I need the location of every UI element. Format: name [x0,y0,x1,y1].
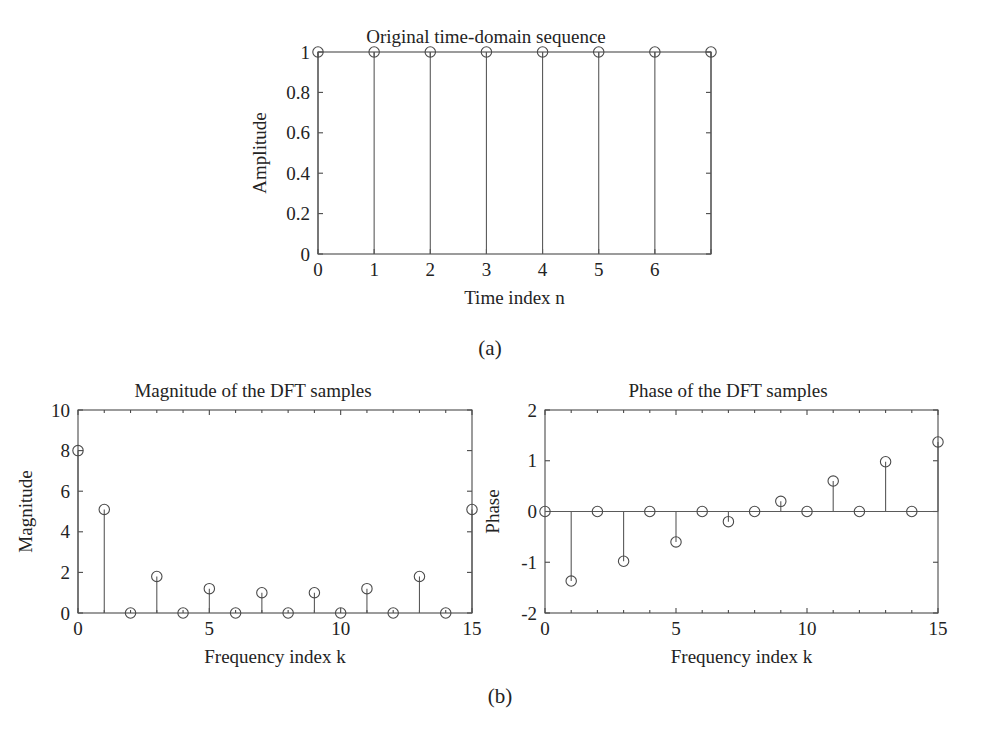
x-tick-label: 5 [205,618,215,639]
x-tick-label: 10 [331,618,350,639]
panel-time-domain: Original time-domain sequence 00.20.40.6… [236,26,736,336]
y-tick-label: -1 [521,552,537,573]
y-tick-label: -2 [521,603,537,624]
y-tick-label: 2 [61,562,71,583]
y-tick-label: 0.4 [286,163,310,184]
y-tick-label: 0 [528,501,538,522]
y-tick-label: 0 [61,603,71,624]
x-tick-label: 15 [929,618,948,639]
y-tick-label: 0.6 [286,122,310,143]
y-tick-label: 2 [528,400,538,421]
x-tick-label: 4 [538,259,548,280]
axis-box [318,52,711,254]
y-tick-label: 0 [301,244,311,265]
y-axis-label: Amplitude [249,112,270,193]
x-axis-label: Frequency index k [671,646,813,667]
x-tick-label: 10 [798,618,817,639]
x-tick-label: 2 [426,259,436,280]
panel-dft-magnitude: Magnitude of the DFT samples 02468100510… [8,380,498,680]
y-tick-label: 8 [61,440,71,461]
dft-magnitude-axes: 0246810051015Frequency index kMagnitude [8,380,498,680]
y-tick-label: 10 [51,400,70,421]
y-axis-label: Magnitude [15,470,36,552]
dft-figure: Original time-domain sequence 00.20.40.6… [0,0,981,734]
x-tick-label: 3 [482,259,492,280]
subcaption-b: (b) [470,684,530,709]
x-tick-label: 0 [540,618,550,639]
y-axis-label: Phase [482,489,503,533]
x-tick-label: 1 [369,259,379,280]
x-tick-label: 5 [671,618,681,639]
x-axis-label: Time index n [464,287,565,308]
y-tick-label: 1 [528,450,538,471]
y-tick-label: 0.2 [286,203,310,224]
x-tick-label: 0 [313,259,323,280]
y-tick-label: 4 [61,521,71,542]
axis-box [78,410,472,613]
x-axis-label: Frequency index k [204,646,346,667]
x-tick-label: 0 [73,618,83,639]
subcaption-a: (a) [460,336,520,361]
y-tick-label: 0.8 [286,82,310,103]
y-tick-label: 6 [61,481,71,502]
y-tick-label: 1 [301,42,311,63]
time-domain-axes: 00.20.40.60.810123456Time index nAmplitu… [236,26,736,336]
panel-dft-phase: Phase of the DFT samples -2-1012051015Fr… [478,380,978,680]
x-tick-label: 6 [650,259,660,280]
x-tick-label: 5 [594,259,604,280]
dft-phase-axes: -2-1012051015Frequency index kPhase [478,380,978,680]
